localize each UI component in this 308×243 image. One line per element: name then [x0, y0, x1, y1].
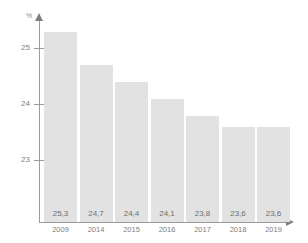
x-axis-category-label: 2015: [115, 225, 148, 234]
bar-value-label: 24,7: [80, 209, 113, 218]
bar: 23,6: [257, 127, 290, 222]
bar-value-label: 23,8: [186, 209, 219, 218]
bar: 24,7: [80, 65, 113, 222]
bar-value-label: 24,1: [151, 209, 184, 218]
bar-value-label: 23,6: [257, 209, 290, 218]
x-axis-category-label: 2016: [151, 225, 184, 234]
bar: 24,1: [151, 99, 184, 222]
bar: 23,8: [186, 116, 219, 222]
bar: 23,6: [222, 127, 255, 222]
bar: 24,4: [115, 82, 148, 222]
bar-chart: % 252423 25,324,724,424,123,823,623,6 20…: [0, 0, 308, 243]
x-axis-category-label: 2009: [44, 225, 77, 234]
x-axis-category-label: 2019: [257, 225, 290, 234]
bar-value-label: 25,3: [44, 209, 77, 218]
x-axis-category-label: 2017: [186, 225, 219, 234]
x-axis-category-label: 2018: [222, 225, 255, 234]
bar-value-label: 24,4: [115, 209, 148, 218]
bars-layer: 25,324,724,424,123,823,623,6: [0, 0, 308, 243]
bar: 25,3: [44, 32, 77, 222]
bar-value-label: 23,6: [222, 209, 255, 218]
x-axis-category-label: 2014: [80, 225, 113, 234]
